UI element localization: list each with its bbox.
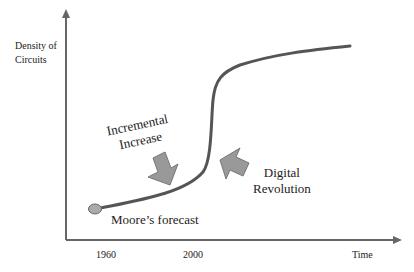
x-axis (66, 236, 402, 244)
x-axis-label: Time (352, 249, 373, 260)
diagram-canvas: Density of Circuits 1960 2000 Time Incre… (0, 0, 414, 272)
x-tick-2000: 2000 (183, 249, 203, 260)
y-axis-label-line2: Circuits (15, 53, 57, 67)
moores-forecast-label: Moore’s forecast (111, 212, 199, 228)
digital-line1: Digital (253, 165, 311, 181)
digital-arrow-icon (220, 148, 249, 179)
x-axis-arrowhead-icon (393, 236, 402, 244)
digital-revolution-label: Digital Revolution (253, 165, 311, 197)
incremental-arrow-icon (148, 152, 178, 185)
x-tick-1960: 1960 (96, 249, 116, 260)
moores-forecast-point (89, 204, 102, 214)
y-axis-label-line1: Density of (15, 39, 57, 53)
y-axis (62, 9, 70, 240)
y-axis-label: Density of Circuits (15, 39, 57, 67)
diagram-svg (0, 0, 414, 272)
digital-line2: Revolution (253, 181, 311, 197)
y-axis-arrowhead-icon (62, 9, 70, 18)
